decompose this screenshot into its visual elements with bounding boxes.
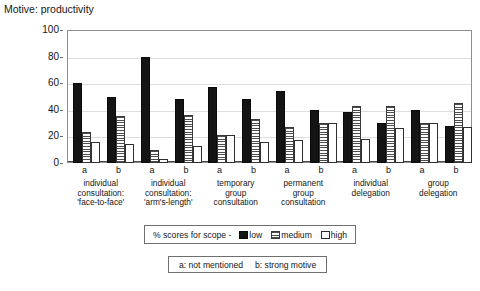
bar-low-5b [377, 123, 386, 163]
x-sublabel-1a: a [82, 165, 87, 175]
y-tick-label-100: 100 [42, 25, 59, 35]
x-group-caption-5: individual delegation [337, 179, 405, 198]
x-axis-labels: abindividual consultation: 'face-to-face… [67, 164, 472, 222]
x-sublabel-6b: b [454, 165, 459, 175]
bar-high-2a [159, 159, 168, 163]
bar-medium-2b [184, 115, 193, 163]
x-sublabel-6a: a [420, 165, 425, 175]
x-sublabel-4a: a [285, 165, 290, 175]
bar-medium-5b [386, 106, 395, 163]
x-subgroup-row-4: ab [270, 164, 338, 177]
bar-group-1 [67, 30, 135, 163]
bar-medium-6b [454, 103, 463, 163]
x-group-5: abindividual delegation [337, 164, 405, 198]
x-group-4: abpermanent group consultation [270, 164, 338, 208]
y-tick-label-20: 20 [48, 131, 59, 141]
x-sublabel-5a: a [352, 165, 357, 175]
bar-low-2a [141, 57, 150, 163]
x-sublabel-2b: b [184, 165, 189, 175]
bar-high-3b [260, 142, 269, 163]
bar-group-2 [135, 30, 203, 163]
x-sublabel-2a: a [150, 165, 155, 175]
y-tick-mark-20 [60, 136, 63, 137]
x-sublabel-4b: b [319, 165, 324, 175]
x-sublabel-1b: b [116, 165, 121, 175]
bar-group-6 [405, 30, 473, 163]
x-subgroup-row-2: ab [135, 164, 203, 177]
bar-group-5 [337, 30, 405, 163]
y-tick-mark-40 [60, 110, 63, 111]
y-tick-mark-0 [60, 163, 63, 164]
bar-low-3a [208, 87, 217, 163]
y-axis: 020406080100 [0, 30, 63, 163]
legend-entry-medium: medium [271, 230, 312, 240]
legend-swatch-medium-icon [271, 231, 280, 239]
bar-high-4b [328, 123, 337, 163]
bar-low-2b [175, 99, 184, 163]
bar-medium-3a [217, 135, 226, 163]
legend-label-high: high [331, 230, 347, 240]
bar-low-4b [310, 110, 319, 163]
y-tick-label-0: 0 [53, 158, 59, 168]
bar-medium-4b [319, 123, 328, 163]
bar-high-2b [193, 146, 202, 163]
x-subgroup-row-3: ab [202, 164, 270, 177]
bar-low-6b [445, 126, 454, 163]
legend-entry-high: high [321, 230, 347, 240]
x-group-caption-1: individual consultation: 'face-to-face' [67, 179, 135, 208]
bar-low-6a [411, 110, 420, 163]
bar-medium-5a [352, 106, 361, 163]
bars-layer [67, 30, 472, 163]
x-subgroup-row-1: ab [67, 164, 135, 177]
x-group-caption-6: group delegation [405, 179, 473, 198]
x-sublabel-5b: b [386, 165, 391, 175]
y-tick-mark-100 [60, 30, 63, 31]
bar-low-1a [73, 83, 82, 163]
bar-low-3b [242, 99, 251, 163]
bar-high-6b [463, 127, 472, 163]
x-group-caption-2: individual consultation: 'arm's-length' [135, 179, 203, 208]
bar-high-3a [226, 135, 235, 163]
chart-legend: % scores for scope - low medium high [144, 225, 356, 244]
bar-medium-3b [251, 119, 260, 163]
y-tick-label-40: 40 [48, 105, 59, 115]
legend-label-low: low [249, 230, 262, 240]
bar-group-4 [270, 30, 338, 163]
x-subgroup-row-6: ab [405, 164, 473, 177]
legend-swatch-low-icon [239, 231, 248, 239]
x-sublabel-3b: b [251, 165, 256, 175]
y-tick-mark-60 [60, 83, 63, 84]
y-tick-label-80: 80 [48, 52, 59, 62]
footnote-b: b: strong motive [255, 260, 316, 270]
bar-high-4a [294, 140, 303, 163]
bar-low-1b [107, 97, 116, 164]
bar-high-5b [395, 128, 404, 163]
chart-footnote: a: not mentioned b: strong motive [168, 256, 327, 273]
x-group-6: abgroup delegation [405, 164, 473, 198]
footnote-a: a: not mentioned [179, 260, 243, 270]
bar-medium-4a [285, 127, 294, 163]
bar-high-1a [91, 142, 100, 163]
legend-swatch-high-icon [321, 231, 330, 239]
legend-prefix: % scores for scope - [153, 230, 231, 240]
x-group-1: abindividual consultation: 'face-to-face… [67, 164, 135, 208]
bar-high-6a [429, 123, 438, 163]
legend-label-medium: medium [281, 230, 312, 240]
x-group-2: abindividual consultation: 'arm's-length… [135, 164, 203, 208]
bar-group-3 [202, 30, 270, 163]
chart-figure: Motive: productivity 020406080100 abindi… [0, 0, 480, 291]
bar-low-5a [343, 112, 352, 163]
x-group-caption-4: permanent group consultation [270, 179, 338, 208]
legend-entry-low: low [239, 230, 262, 240]
x-sublabel-3a: a [217, 165, 222, 175]
bar-high-5a [361, 139, 370, 163]
bar-medium-1a [82, 132, 91, 163]
bar-low-4a [276, 91, 285, 163]
y-tick-mark-80 [60, 57, 63, 58]
bar-medium-1b [116, 116, 125, 163]
x-subgroup-row-5: ab [337, 164, 405, 177]
bar-medium-2a [150, 150, 159, 163]
x-group-3: abtemporary group consultation [202, 164, 270, 208]
bar-medium-6a [420, 123, 429, 163]
bar-high-1b [125, 144, 134, 163]
